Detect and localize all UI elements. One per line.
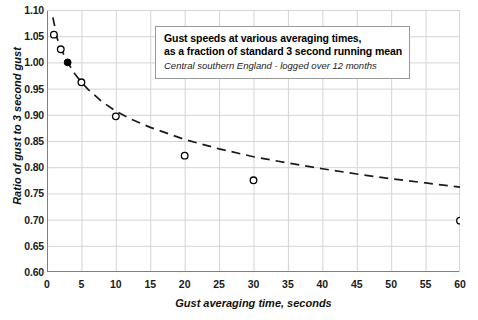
y-tick-label: 0.85 <box>0 136 44 147</box>
annotation-line-1: Gust speeds at various averaging times, <box>164 32 402 45</box>
y-tick-label: 0.70 <box>0 215 44 226</box>
y-tick-label: 0.95 <box>0 84 44 95</box>
annotation-line-2: as a fraction of standard 3 second runni… <box>164 45 402 58</box>
y-tick-label: 0.65 <box>0 241 44 252</box>
y-tick-label: 1.00 <box>0 57 44 68</box>
x-tick-label: 60 <box>440 279 478 290</box>
y-tick-label: 1.10 <box>0 5 44 16</box>
y-tick-label: 0.80 <box>0 162 44 173</box>
annotation-box: Gust speeds at various averaging times, … <box>155 26 410 79</box>
y-tick-label: 0.90 <box>0 110 44 121</box>
x-axis-label: Gust averaging time, seconds <box>47 297 460 309</box>
y-tick-label: 1.05 <box>0 31 44 42</box>
y-tick-label: 0.60 <box>0 267 44 278</box>
annotation-line-3: Central southern England - logged over 1… <box>164 59 402 72</box>
gust-ratio-chart: Ratio of gust to 3 second gust 0.600.650… <box>0 0 478 320</box>
y-tick-label: 0.75 <box>0 188 44 199</box>
